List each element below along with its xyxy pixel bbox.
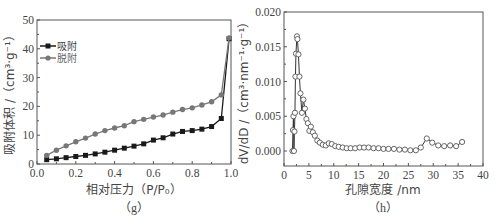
data-point-open-circle	[454, 144, 459, 149]
data-point-square	[93, 151, 98, 156]
y-tick-label: 0.005	[255, 110, 281, 122]
x-axis-label-h: 孔隙宽度 /nm	[345, 182, 420, 197]
data-point-open-circle	[408, 148, 413, 153]
data-point-circle	[63, 143, 68, 148]
data-point-circle	[102, 128, 107, 133]
data-point-circle	[131, 119, 136, 124]
data-point-circle	[170, 109, 175, 114]
x-tick-label: 1.0	[224, 167, 239, 179]
y-tick-label: 20	[23, 100, 35, 112]
y-tick-label: 10	[23, 129, 35, 141]
y-tick-label: 0.015	[255, 41, 281, 53]
data-point-square	[102, 150, 107, 155]
data-point-square	[180, 129, 185, 134]
y-axis-label-g: 吸附体积 /（cm³·g⁻¹）	[3, 29, 17, 155]
caption-h: （h）	[368, 201, 398, 215]
y-tick-label: 0.020	[255, 6, 281, 18]
x-tick-label: 30	[428, 169, 440, 181]
series-h	[290, 34, 465, 154]
data-point-square	[112, 148, 117, 153]
data-point-open-circle	[430, 140, 435, 145]
data-point-circle	[199, 102, 204, 107]
data-point-circle	[151, 114, 156, 119]
axis-ticks-h: 05101520253035400.0000.0050.0100.0150.02…	[255, 6, 489, 181]
x-tick-label: 0.2	[69, 167, 84, 179]
data-point-square	[190, 128, 195, 133]
plot-frame-h	[284, 12, 483, 166]
x-tick-label: 25	[403, 169, 415, 181]
data-point-square	[141, 141, 146, 146]
data-point-circle	[73, 139, 78, 144]
data-point-circle	[112, 125, 117, 130]
data-point-square	[132, 144, 137, 149]
data-point-open-circle	[381, 146, 386, 151]
data-point-square	[209, 124, 214, 129]
data-point-open-circle	[376, 146, 381, 151]
data-point-open-circle	[418, 145, 423, 150]
data-point-open-circle	[442, 144, 447, 149]
legend-square-marker	[46, 44, 51, 49]
legend-label-desorption: 脱附	[57, 52, 77, 64]
x-tick-label: 0.4	[107, 167, 122, 179]
data-point-open-circle	[436, 143, 441, 148]
data-point-open-circle	[297, 74, 302, 79]
x-tick-label: 5	[306, 169, 312, 181]
x-tick-label: 20	[378, 169, 390, 181]
data-point-square	[122, 146, 127, 151]
x-tick-label: 35	[452, 169, 464, 181]
data-point-open-circle	[292, 129, 297, 134]
data-point-circle	[93, 131, 98, 136]
data-point-open-circle	[391, 146, 396, 151]
data-point-square	[64, 155, 69, 160]
data-point-square	[83, 153, 88, 158]
data-point-circle	[44, 153, 49, 158]
data-point-square	[170, 132, 175, 137]
data-point-square	[151, 138, 156, 143]
y-tick-label: 0	[28, 158, 34, 170]
legend-g: 吸附 脱附	[40, 40, 77, 64]
data-point-open-circle	[386, 146, 391, 151]
data-point-open-circle	[424, 136, 429, 141]
data-point-open-circle	[312, 133, 317, 138]
data-point-open-circle	[292, 110, 297, 115]
y-tick-label: 40	[23, 43, 35, 55]
data-point-square	[161, 135, 166, 140]
data-point-open-circle	[308, 124, 313, 129]
x-tick-label: 40	[477, 169, 489, 181]
y-tick-label: 50	[23, 14, 35, 26]
data-point-square	[73, 154, 78, 159]
data-point-square	[219, 116, 224, 121]
data-point-square	[199, 127, 204, 132]
data-point-open-circle	[371, 146, 376, 151]
chart-g-isotherm: 0.00.20.40.60.81.001020304050 吸附 脱附 吸附体积…	[3, 14, 238, 215]
data-point-open-circle	[291, 148, 296, 153]
data-point-open-circle	[413, 148, 418, 153]
y-tick-label: 0.000	[255, 145, 281, 157]
data-point-open-circle	[460, 139, 465, 144]
data-point-circle	[219, 92, 224, 97]
data-point-circle	[160, 112, 165, 117]
chart-h-pore-distribution: 05101520253035400.0000.0050.0100.0150.02…	[237, 6, 489, 215]
legend-label-adsorption: 吸附	[57, 40, 77, 52]
data-point-open-circle	[397, 147, 402, 152]
x-tick-label: 0.6	[146, 167, 161, 179]
data-point-square	[54, 156, 59, 161]
data-point-circle	[226, 35, 231, 40]
data-point-open-circle	[302, 106, 307, 111]
data-point-circle	[209, 99, 214, 104]
y-tick-label: 0.010	[255, 76, 281, 88]
data-point-circle	[180, 107, 185, 112]
legend-circle-marker	[45, 55, 50, 60]
series-line	[292, 36, 462, 151]
data-point-open-circle	[366, 145, 371, 150]
axis-ticks-g: 0.00.20.40.60.81.001020304050	[23, 14, 239, 179]
data-point-open-circle	[402, 147, 407, 152]
data-point-open-circle	[301, 97, 306, 102]
data-point-circle	[83, 135, 88, 140]
data-point-open-circle	[298, 91, 303, 96]
x-axis-label-g: 相对压力（P/P₀）	[86, 183, 181, 197]
data-point-circle	[122, 123, 127, 128]
data-point-circle	[54, 147, 59, 152]
caption-g: （g）	[119, 201, 149, 215]
data-point-circle	[141, 117, 146, 122]
